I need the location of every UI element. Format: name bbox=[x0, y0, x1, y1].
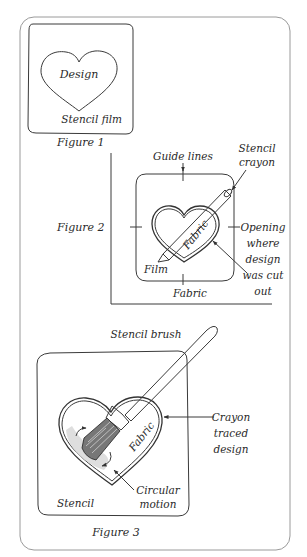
stenciling-diagram: Design Stencil film Figure 1 Figure 2 Gu… bbox=[0, 0, 307, 557]
stencil-crayon-label-1: Stencil bbox=[239, 142, 276, 154]
guide-lines-label: Guide lines bbox=[153, 150, 213, 162]
crayon-traced-label-3: design bbox=[213, 443, 248, 455]
stencil-film-label: Stencil film bbox=[61, 113, 122, 125]
opening-label-2: where bbox=[246, 237, 279, 249]
opening-arrow bbox=[213, 241, 247, 273]
opening-label-3: design bbox=[245, 253, 280, 265]
fabric-label-fig3: Fabric bbox=[126, 419, 157, 454]
stencil-label: Stencil bbox=[57, 497, 94, 509]
heart-opening-outline bbox=[152, 206, 219, 262]
figure-2-caption: Figure 2 bbox=[56, 221, 105, 234]
stencil-crayon-arrow bbox=[232, 170, 246, 190]
stencil-brush-label: Stencil brush bbox=[111, 328, 182, 340]
circular-motion-label-2: motion bbox=[140, 498, 177, 510]
stencil-brush-icon bbox=[82, 326, 217, 460]
film-label: Film bbox=[143, 263, 168, 275]
opening-label-4: was cut bbox=[243, 269, 285, 281]
figure-1-caption: Figure 1 bbox=[56, 136, 105, 149]
figure-1: Design Stencil film Figure 1 bbox=[28, 24, 133, 149]
crayon-traced-label-2: traced bbox=[214, 427, 249, 439]
heart-opening-inner bbox=[155, 209, 216, 258]
circular-motion-label-1: Circular bbox=[136, 484, 181, 496]
opening-label-5: out bbox=[254, 285, 272, 297]
fabric-outer-label: Fabric bbox=[172, 287, 207, 299]
crayon-traced-label-1: Crayon bbox=[212, 411, 251, 423]
design-label: Design bbox=[59, 68, 99, 81]
figure-2: Figure 2 Guide lines Fabric Stencil cray… bbox=[56, 142, 286, 304]
figure-3-caption: Figure 3 bbox=[91, 526, 140, 539]
opening-label-1: Opening bbox=[240, 221, 285, 233]
stencil-crayon-label-2: crayon bbox=[239, 156, 275, 168]
figure-3: Fabric Stencil brush Crayon traced desig… bbox=[37, 326, 250, 539]
